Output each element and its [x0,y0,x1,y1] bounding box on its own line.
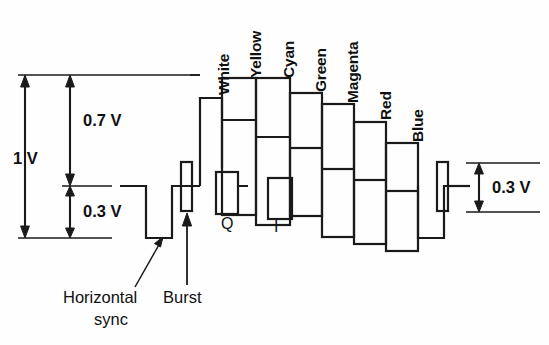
bar-label-white: White [216,54,232,95]
callout-horizontal-sync-line1: Horizontal [63,289,137,306]
bar-label-red: Red [378,91,394,120]
cyan-chroma-envelope [256,78,290,225]
sync-volt-arrowhead-up [66,186,75,196]
callout-horizontal-sync-line2: sync [94,311,128,328]
q-test-bar [216,172,238,214]
chroma-label-i: I [274,219,278,235]
bar-label-green: Green [313,48,329,92]
magenta-chroma-envelope [322,104,354,237]
blue-chroma-envelope [386,143,418,251]
scale-label-sync-right: 0.3 V [492,179,531,196]
scale-label-picture: 0.7 V [83,112,122,129]
callout-burst: Burst [163,289,202,306]
red-chroma-envelope [354,122,386,244]
scale-label-total: 1 V [13,150,38,167]
picture-volt-arrowhead-up [66,75,75,87]
chroma-label-q: Q [221,216,233,232]
picture-volt-arrowhead-down [66,174,75,186]
composite-waveform [120,78,470,251]
callout-leaders [135,213,192,287]
bar-label-magenta: Magenta [345,42,361,103]
green-chroma-envelope [290,93,322,216]
waveform-figure: White Yellow Cyan Green Magenta Red Blue… [0,0,549,345]
bar-label-blue: Blue [410,109,426,142]
bar-label-cyan: Cyan [281,41,297,78]
sync-volt-arrowhead-down [66,228,75,238]
burst-arrowhead [182,213,191,226]
right-arrowhead-up [475,163,484,174]
i-test-bar [268,178,292,219]
horizontal-sync-leader [135,243,160,287]
scale-label-sync: 0.3 V [83,203,122,220]
bar-label-yellow: Yellow [248,31,264,78]
one-volt-arrowhead-up [21,75,30,87]
right-arrowhead-down [475,201,484,212]
one-volt-arrowhead-down [21,226,30,238]
